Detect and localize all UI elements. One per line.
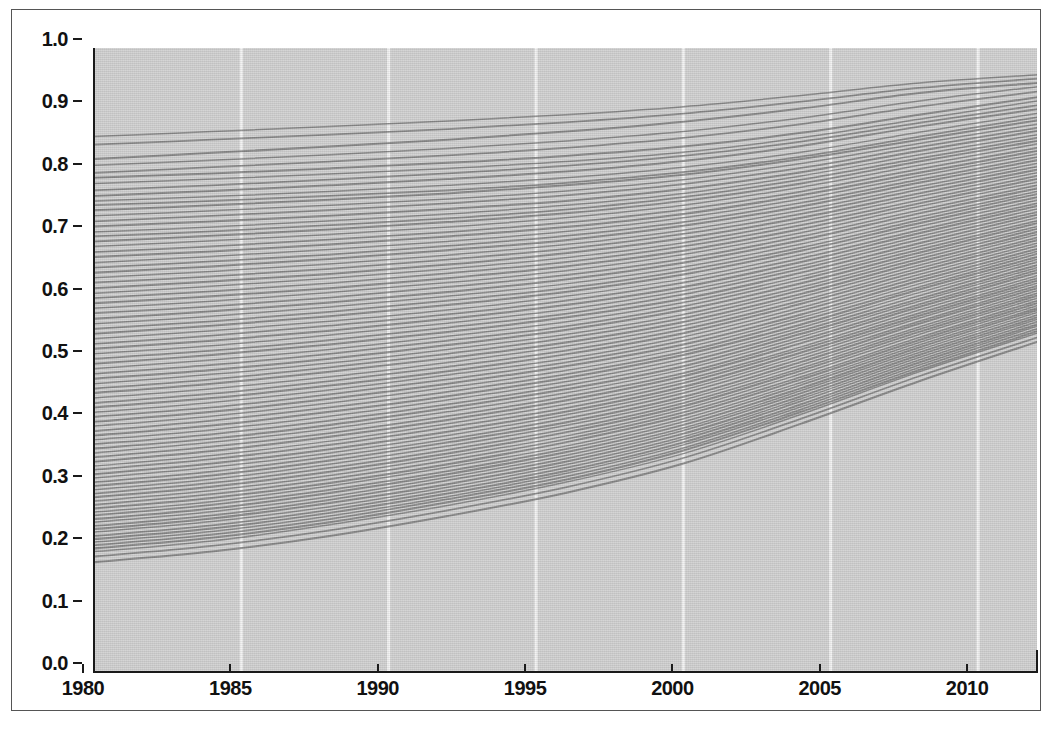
y-tick-label-0.2: 0.2 <box>12 527 68 550</box>
y-axis-line <box>93 48 95 673</box>
spaghetti-line-chart <box>94 48 1037 672</box>
x-tick-mark <box>966 664 968 673</box>
y-tick-label-1.0: 1.0 <box>12 28 68 51</box>
y-tick-label-0.6: 0.6 <box>12 277 68 300</box>
y-tick-mark <box>73 475 82 477</box>
y-tick-mark <box>73 662 82 664</box>
x-tick-label-2010: 2010 <box>922 677 1012 700</box>
figure-frame: 0.00.10.20.30.40.50.60.70.80.91.0 198019… <box>11 9 1041 711</box>
y-tick-mark <box>73 163 82 165</box>
series-line <box>94 79 1037 145</box>
x-tick-label-2005: 2005 <box>775 677 865 700</box>
y-tick-label-0.3: 0.3 <box>12 464 68 487</box>
x-tick-label-1990: 1990 <box>333 677 423 700</box>
y-tick-mark <box>73 350 82 352</box>
x-tick-mark <box>377 664 379 673</box>
x-axis-right-cap <box>1036 650 1038 673</box>
y-tick-label-0.7: 0.7 <box>12 215 68 238</box>
x-tick-label-1980: 1980 <box>38 677 128 700</box>
plot-area <box>94 48 1037 672</box>
x-tick-label-1985: 1985 <box>185 677 275 700</box>
x-tick-mark <box>671 664 673 673</box>
y-tick-label-0.1: 0.1 <box>12 589 68 612</box>
y-tick-mark <box>73 412 82 414</box>
x-tick-mark <box>819 664 821 673</box>
x-tick-mark <box>229 664 231 673</box>
y-tick-label-0.8: 0.8 <box>12 152 68 175</box>
y-tick-label-0.9: 0.9 <box>12 90 68 113</box>
x-tick-label-2000: 2000 <box>627 677 717 700</box>
y-tick-mark <box>73 225 82 227</box>
series-line <box>94 128 1037 222</box>
x-axis-line <box>93 671 1038 673</box>
x-tick-mark <box>524 664 526 673</box>
y-tick-mark <box>73 600 82 602</box>
y-tick-mark <box>73 288 82 290</box>
y-tick-mark <box>73 38 82 40</box>
y-tick-label-0.4: 0.4 <box>12 402 68 425</box>
y-tick-mark <box>73 100 82 102</box>
y-tick-mark <box>73 537 82 539</box>
y-tick-label-0.5: 0.5 <box>12 340 68 363</box>
x-tick-label-1995: 1995 <box>480 677 570 700</box>
y-tick-label-0.0: 0.0 <box>12 652 68 675</box>
figure-canvas: 0.00.10.20.30.40.50.60.70.80.91.0 198019… <box>0 0 1055 732</box>
x-tick-mark <box>82 664 84 673</box>
series-line-group <box>94 75 1037 562</box>
